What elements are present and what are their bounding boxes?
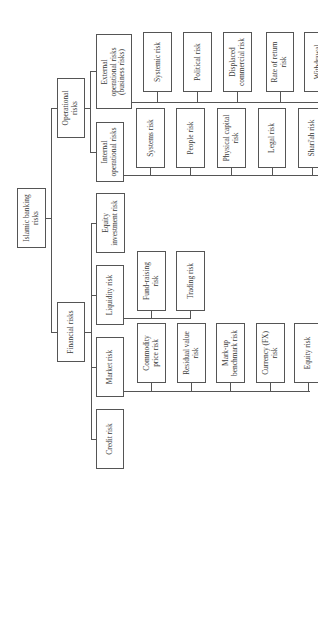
node-label: Liquidity risk <box>106 275 115 315</box>
node-label: Political risk <box>193 43 202 81</box>
node-label: Mark-up benchmark risk <box>222 330 239 376</box>
connector <box>124 175 318 176</box>
node-residual-value-risk: Residual value risk <box>177 323 206 383</box>
node-label: Legal risk <box>268 123 277 153</box>
connector <box>91 223 92 439</box>
node-withdrawal-risk: Withdrawal <box>304 32 318 92</box>
node-label: Trading risk <box>186 263 195 299</box>
node-physical-capital-risk: Physical capital risk <box>217 108 246 168</box>
node-credit-risk: Credit risk <box>96 409 124 469</box>
node-islamic-banking-risks: Islamic banking risks <box>17 188 46 248</box>
connector <box>157 92 158 102</box>
node-label: Systemic risk <box>153 42 162 82</box>
node-operational-risks: Operational risks <box>57 78 85 138</box>
connector <box>124 391 310 392</box>
node-fund-raising-risk: Fund-raising risk <box>137 251 166 311</box>
node-label: Equity risk <box>304 337 313 370</box>
connector <box>308 383 309 391</box>
node-label: Shari'ah risk <box>308 120 317 157</box>
node-financial-risks: Financial risks <box>57 302 85 362</box>
node-internal-operational-risks: Internal operational risks <box>96 122 124 182</box>
connector <box>190 311 191 318</box>
connector <box>280 92 281 102</box>
node-label: Rate of return risk <box>271 41 288 82</box>
connector <box>124 318 191 319</box>
node-market-risk: Market risk <box>96 337 124 397</box>
node-label: Equity investment risk <box>102 200 119 245</box>
node-political-risk: Political risk <box>183 32 212 92</box>
node-markup-benchmark-risk: Mark-up benchmark risk <box>216 323 245 383</box>
connector <box>150 168 151 175</box>
node-label: Commodity price risk <box>143 335 160 370</box>
connector <box>85 108 90 109</box>
connector <box>151 311 152 318</box>
node-label: Displaced commercial risk <box>229 38 246 86</box>
node-rate-of-return-risk: Rate of return risk <box>266 32 294 92</box>
connector <box>230 383 231 391</box>
node-label: Fund-raising risk <box>143 262 160 300</box>
connector <box>270 383 271 391</box>
connector <box>90 71 91 152</box>
node-currency-fx-risk: Currency (FX) risk <box>256 323 285 383</box>
node-trading-risk: Trading risk <box>176 251 205 311</box>
node-liquidity-risk: Liquidity risk <box>96 265 124 325</box>
node-label: Islamic banking risks <box>23 194 40 241</box>
node-displaced-commercial-risk: Displaced commercial risk <box>223 32 252 92</box>
node-label: Physical capital risk <box>223 115 240 162</box>
node-label: Withdrawal <box>314 45 318 80</box>
node-label: Systems risk <box>146 119 155 157</box>
connector <box>231 168 232 175</box>
node-equity-investment-risk: Equity investment risk <box>96 193 125 253</box>
node-people-risk: People risk <box>176 108 205 168</box>
node-label: Credit risk <box>106 423 115 454</box>
connector <box>51 108 52 332</box>
node-label: Operational risks <box>62 91 79 126</box>
node-label: Financial risks <box>67 310 76 353</box>
node-equity-risk: Equity risk <box>294 323 318 383</box>
node-legal-risk: Legal risk <box>258 108 286 168</box>
connector <box>131 102 318 103</box>
connector <box>190 168 191 175</box>
connector <box>312 168 313 175</box>
node-systems-risk: Systems risk <box>136 108 165 168</box>
node-commodity-price-risk: Commodity price risk <box>137 323 166 383</box>
connector <box>151 383 152 391</box>
node-label: External operational risks (business ris… <box>101 47 127 96</box>
connector <box>191 383 192 391</box>
node-label: People risk <box>186 121 195 154</box>
node-label: Market risk <box>106 350 115 384</box>
node-label: Residual value risk <box>183 331 200 375</box>
node-systemic-risk: Systemic risk <box>143 32 172 92</box>
node-external-operational-risks: External operational risks (business ris… <box>96 34 132 109</box>
connector <box>272 168 273 175</box>
node-label: Internal operational risks <box>101 127 118 176</box>
connector <box>85 332 91 333</box>
connector <box>237 92 238 102</box>
connector <box>197 92 198 102</box>
node-label: Currency (FX) risk <box>262 331 279 375</box>
node-shariah-risk: Shari'ah risk <box>298 108 318 168</box>
